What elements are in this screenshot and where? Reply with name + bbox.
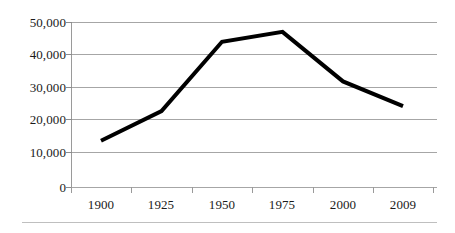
line-chart: (function(){ var g = document.getElement… xyxy=(0,0,455,233)
bottom-rule xyxy=(22,222,437,223)
y-tick-mark-50000 xyxy=(66,22,72,23)
y-tick-label-10000: 10,000 xyxy=(6,146,66,159)
x-tick-mark-7 xyxy=(433,187,434,193)
x-tick-label-1975: 1975 xyxy=(252,198,312,211)
x-tick-label-1925: 1925 xyxy=(131,198,191,211)
x-tick-mark-3 xyxy=(192,187,193,193)
gridline-10000 xyxy=(71,152,437,153)
x-tick-mark-4 xyxy=(252,187,253,193)
y-tick-label-0: 0 xyxy=(6,181,66,194)
x-tick-label-1950: 1950 xyxy=(192,198,252,211)
x-tick-mark-2 xyxy=(131,187,132,193)
y-tick-mark-40000 xyxy=(66,54,72,55)
gridline-40000 xyxy=(71,54,437,55)
x-tick-label-2009: 2009 xyxy=(373,198,433,211)
y-tick-label-20000: 20,000 xyxy=(6,113,66,126)
x-tick-mark-5 xyxy=(313,187,314,193)
x-tick-mark-6 xyxy=(373,187,374,193)
y-tick-mark-30000 xyxy=(66,87,72,88)
y-tick-label-30000: 30,000 xyxy=(6,81,66,94)
y-tick-label-50000: 50,000 xyxy=(6,16,66,29)
gridlines xyxy=(71,22,437,188)
gridline-30000 xyxy=(71,87,437,88)
x-tick-label-1900: 1900 xyxy=(71,198,131,211)
y-tick-mark-20000 xyxy=(66,119,72,120)
y-tick-mark-10000 xyxy=(66,152,72,153)
y-tick-label-40000: 40,000 xyxy=(6,48,66,61)
y-axis-line xyxy=(71,22,72,188)
x-tick-mark-1 xyxy=(71,187,72,193)
x-tick-label-2000: 2000 xyxy=(313,198,373,211)
gridline-50000 xyxy=(71,22,437,23)
y-axis-labels: 50,000 40,000 30,000 20,000 10,000 0 xyxy=(4,0,66,233)
gridline-0 xyxy=(71,187,437,188)
gridline-20000 xyxy=(71,119,437,120)
